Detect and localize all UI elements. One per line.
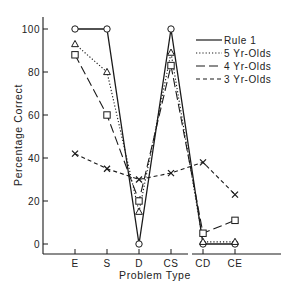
legend: Rule 15 Yr-Olds4 Yr-Olds3 Yr-Olds: [196, 35, 271, 85]
legend-label: 4 Yr-Olds: [224, 61, 271, 72]
series-line: [75, 29, 235, 244]
x-tick-label: CS: [164, 258, 179, 269]
y-tick-label: 20: [28, 196, 40, 207]
y-tick-label: 0: [34, 239, 40, 250]
y-tick-label: 80: [28, 67, 40, 78]
square-marker: [200, 230, 206, 236]
series-3-yr-olds: [72, 151, 238, 198]
x-tick-label: CD: [195, 258, 210, 269]
x-tick-label: D: [135, 258, 143, 269]
x-tick-label: S: [103, 258, 110, 269]
y-tick-label: 40: [28, 153, 40, 164]
series-group: [72, 26, 239, 247]
series-line: [75, 55, 235, 233]
line-chart: 020406080100ESDCSCDCEProblem TypePercent…: [0, 0, 294, 290]
series-rule-1: [72, 26, 238, 247]
triangle-marker: [136, 208, 143, 214]
square-marker: [104, 112, 110, 118]
circle-marker: [136, 241, 142, 247]
x-marker: [200, 159, 206, 165]
legend-label: Rule 1: [224, 35, 257, 46]
series-line: [75, 44, 235, 242]
circle-marker: [72, 26, 78, 32]
circle-marker: [168, 26, 174, 32]
series-5-yr-olds: [72, 40, 239, 244]
y-axis-title: Percentage Correct: [12, 84, 24, 186]
series-line: [75, 154, 235, 195]
triangle-marker: [168, 49, 175, 55]
x-marker: [232, 192, 238, 198]
square-marker: [72, 52, 78, 58]
x-marker: [104, 166, 110, 172]
triangle-marker: [72, 40, 79, 46]
y-tick-label: 100: [22, 24, 40, 35]
circle-marker: [104, 26, 110, 32]
square-marker: [168, 62, 174, 68]
y-tick-label: 60: [28, 110, 40, 121]
square-marker: [136, 198, 142, 204]
x-tick-label: E: [71, 258, 78, 269]
legend-label: 3 Yr-Olds: [224, 74, 271, 85]
x-axis-title: Problem Type: [119, 269, 191, 281]
x-marker: [72, 151, 78, 157]
x-tick-label: CE: [228, 258, 243, 269]
square-marker: [232, 217, 238, 223]
legend-label: 5 Yr-Olds: [224, 48, 271, 59]
